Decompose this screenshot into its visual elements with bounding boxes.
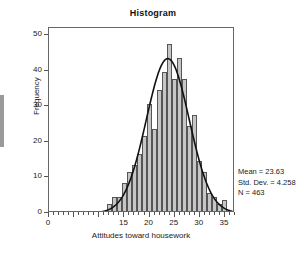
x-axis-tick xyxy=(169,212,170,215)
y-axis-tick-label: 30 xyxy=(20,101,42,109)
x-axis-title: Attitudes toward housework xyxy=(48,231,234,240)
x-axis-tick xyxy=(83,212,84,215)
x-axis-tick xyxy=(209,212,210,215)
x-axis-tick xyxy=(133,212,134,215)
x-axis-tick xyxy=(144,212,145,215)
x-axis: 01520253035 xyxy=(48,212,234,218)
x-axis-tick xyxy=(93,212,94,215)
normal-curve-overlay xyxy=(49,28,233,211)
chart-title: Histogram xyxy=(0,8,306,18)
x-axis-tick xyxy=(63,212,64,215)
y-axis-tick-label: 50 xyxy=(20,30,42,38)
x-axis-tick-label: 35 xyxy=(214,218,234,227)
x-axis-tick xyxy=(98,212,99,217)
x-axis-tick xyxy=(149,212,150,217)
x-axis-tick xyxy=(154,212,155,215)
x-axis-tick xyxy=(138,212,139,215)
x-axis-tick xyxy=(58,212,59,215)
x-axis-tick xyxy=(204,212,205,215)
x-axis-tick xyxy=(234,212,235,215)
y-axis-tick-label: 40 xyxy=(20,66,42,74)
x-axis-tick xyxy=(214,212,215,215)
stats-annotation: Mean = 23.63 Std. Dev. = 4.258 N = 463 xyxy=(238,167,296,199)
x-axis-tick xyxy=(88,212,89,215)
y-axis-tick-label: 10 xyxy=(20,172,42,180)
x-axis-tick xyxy=(229,212,230,215)
page-edge-artifact xyxy=(0,95,4,147)
x-axis-tick xyxy=(68,212,69,215)
x-axis-tick xyxy=(113,212,114,215)
x-axis-tick xyxy=(174,212,175,217)
stat-mean: Mean = 23.63 xyxy=(238,167,296,178)
x-axis-tick xyxy=(108,212,109,215)
x-axis-tick xyxy=(118,212,119,215)
x-axis-tick xyxy=(123,212,124,217)
x-axis-tick xyxy=(78,212,79,215)
x-axis-tick-label: 15 xyxy=(113,218,133,227)
stat-std-dev: Std. Dev. = 4.258 xyxy=(238,178,296,189)
x-axis-tick xyxy=(179,212,180,215)
x-axis-tick xyxy=(189,212,190,215)
x-axis-tick xyxy=(128,212,129,215)
plot-area xyxy=(48,27,234,212)
x-axis-tick xyxy=(224,212,225,217)
x-axis-tick xyxy=(164,212,165,215)
x-axis-tick-label: 20 xyxy=(139,218,159,227)
histogram-figure: Histogram Frequency 01020304050 01520253… xyxy=(0,0,306,255)
x-axis-tick xyxy=(194,212,195,215)
x-axis-tick-label: 30 xyxy=(189,218,209,227)
x-axis-tick xyxy=(73,212,74,217)
x-axis-tick xyxy=(219,212,220,215)
x-axis-tick xyxy=(199,212,200,217)
x-axis-tick xyxy=(184,212,185,215)
x-axis-tick-label: 25 xyxy=(164,218,184,227)
stat-n: N = 463 xyxy=(238,188,296,199)
x-axis-tick xyxy=(103,212,104,215)
y-axis-title: Frequency xyxy=(32,77,41,115)
x-axis-tick xyxy=(48,212,49,217)
x-axis-tick-label: 0 xyxy=(38,218,58,227)
x-axis-tick xyxy=(53,212,54,215)
y-axis-tick-label: 0 xyxy=(20,208,42,216)
y-axis-tick-label: 20 xyxy=(20,137,42,145)
x-axis-tick xyxy=(159,212,160,215)
